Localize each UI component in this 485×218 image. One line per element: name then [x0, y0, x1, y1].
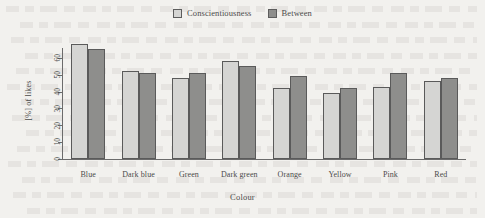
y-axis-tick-label: 20 [53, 120, 63, 130]
x-axis-tick-label: Green [164, 170, 214, 179]
x-axis-tick-label: Orange [265, 170, 315, 179]
x-axis-title: Colour [0, 192, 485, 202]
page-bleed-line [27, 208, 477, 214]
legend-item-label: Between [282, 8, 312, 18]
y-axis-title-label: [%] of likes [24, 80, 33, 120]
bar-chart-figure: ConscientiousnessBetween [%] of likes 01… [0, 0, 485, 218]
bar [323, 93, 340, 159]
x-axis-tick-labels: BlueDark blueGreenDark greenOrangeYellow… [63, 170, 466, 179]
bar-group [315, 40, 365, 159]
legend-item: Conscientiousness [173, 8, 252, 18]
bar [273, 88, 290, 159]
bar-group [265, 40, 315, 159]
y-axis-tick-label: 60 [53, 53, 63, 63]
bar-group [63, 40, 113, 159]
bar [222, 61, 239, 159]
page-bleed-line [20, 22, 477, 28]
y-axis-tick-label: 40 [53, 87, 63, 97]
bar [373, 87, 390, 159]
legend-item: Between [268, 8, 312, 18]
bar [340, 88, 357, 159]
bar [189, 73, 206, 159]
y-axis-tick-value: 50 [54, 71, 62, 79]
y-axis-tick-label: 30 [53, 103, 63, 113]
legend-swatch-icon [173, 9, 182, 18]
y-axis-tick-value: 30 [54, 105, 62, 113]
bar [88, 49, 105, 159]
bar [172, 78, 189, 159]
y-axis-tick-value: 60 [54, 54, 62, 62]
bar-groups [63, 40, 466, 159]
bar [290, 76, 307, 159]
y-axis-tick-label: 0 [53, 154, 63, 164]
bar-group [164, 40, 214, 159]
bar-group [416, 40, 466, 159]
y-axis-tick-value: 10 [54, 138, 62, 146]
y-axis-tick-label: 50 [53, 70, 63, 80]
y-axis-tick-label: 10 [53, 137, 63, 147]
bar [239, 66, 256, 159]
bar-group [365, 40, 415, 159]
bar [71, 44, 88, 159]
x-axis-tick-label: Red [416, 170, 466, 179]
bar [390, 73, 407, 159]
chart-legend: ConscientiousnessBetween [0, 8, 485, 18]
y-axis-title: [%] of likes [22, 40, 34, 160]
x-axis-line [62, 159, 466, 160]
x-axis-tick-label: Dark green [214, 170, 264, 179]
y-axis-tick-value: 40 [54, 88, 62, 96]
y-axis-tick-value: 0 [54, 157, 62, 161]
x-axis-tick-label: Yellow [315, 170, 365, 179]
legend-item-label: Conscientiousness [187, 8, 252, 18]
page-bleed-line [8, 161, 477, 167]
bar-group [113, 40, 163, 159]
plot-area: 0102030405060 [62, 40, 466, 160]
bar [122, 71, 139, 159]
x-axis-title-label: Colour [230, 192, 255, 202]
legend-swatch-icon [268, 9, 277, 18]
bar [441, 78, 458, 159]
x-axis-tick-label: Pink [365, 170, 415, 179]
x-axis-tick-label: Blue [63, 170, 113, 179]
y-axis-tick-value: 20 [54, 122, 62, 130]
bar [139, 73, 156, 159]
bar [424, 81, 441, 159]
x-axis-tick-label: Dark blue [113, 170, 163, 179]
bar-group [214, 40, 264, 159]
